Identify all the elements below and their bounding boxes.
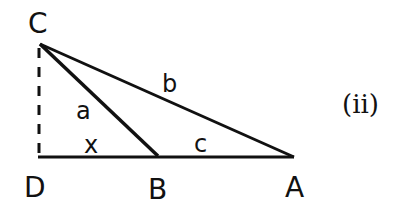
figure-tag: (ii) [342,89,379,119]
side-x-label: x [84,131,98,159]
side-b-label: b [162,70,177,98]
side-a-label: a [76,97,91,125]
vertex-D-label: D [24,171,46,204]
vertex-B-label: B [148,173,167,206]
vertex-A-label: A [285,171,304,204]
vertex-C-label: C [28,7,48,40]
side-c-label: c [194,130,207,158]
side-CB [40,44,158,156]
triangle-diagram: C D B A a b c x (ii) [0,0,401,211]
